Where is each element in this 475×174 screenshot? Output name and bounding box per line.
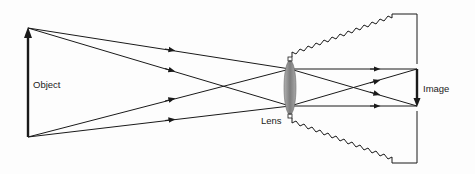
diagram-graphic	[0, 0, 475, 174]
rays-from-object-bottom	[28, 69, 290, 137]
lens	[284, 57, 296, 118]
image-label: Image	[423, 83, 449, 94]
object-label: Object	[33, 79, 60, 90]
image-arrow	[414, 69, 421, 107]
object-arrow	[24, 27, 32, 137]
rays-from-object-top	[28, 28, 290, 106]
rays-after-lens	[290, 69, 417, 106]
camera-bellows	[292, 14, 417, 163]
lens-ray-diagram: Object Lens Image	[0, 0, 475, 174]
lens-label: Lens	[261, 115, 282, 126]
